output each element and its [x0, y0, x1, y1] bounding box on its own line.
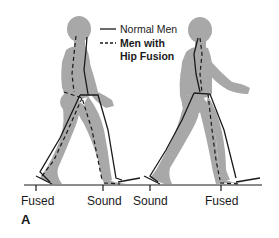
right-figure-silhouette [150, 17, 250, 184]
ground-ticks [36, 185, 221, 191]
label-left-sound: Sound [87, 194, 122, 208]
legend-normal-men-label: Normal Men [120, 23, 177, 35]
label-left-fused: Fused [21, 194, 54, 208]
legend-hip-fusion-label-line2: Hip Fusion [120, 50, 174, 62]
label-right-fused: Fused [205, 194, 238, 208]
legend-hip-fusion-label-line1: Men with [120, 37, 165, 49]
label-right-sound: Sound [133, 194, 168, 208]
panel-label: A [21, 212, 30, 227]
